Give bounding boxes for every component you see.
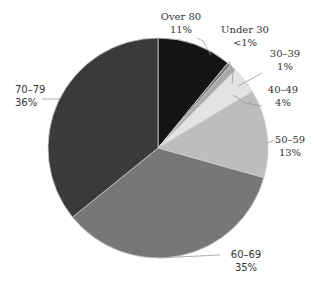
label-40-49-name: 40–49: [268, 84, 298, 95]
label-60-69-pct: 35%: [235, 262, 257, 273]
label-30-39-name: 30–39: [270, 48, 300, 59]
label-40-49-pct: 4%: [275, 97, 291, 108]
label-under30-pct: <1%: [233, 37, 257, 48]
label-70-79-name: 70–79: [15, 84, 45, 95]
label-50-59-name: 50–59: [275, 134, 305, 145]
label-70-79-pct: 36%: [15, 97, 37, 108]
label-over80-name: Over 80: [161, 11, 201, 22]
label-over80-pct: 11%: [170, 24, 192, 35]
label-60-69-name: 60–69: [231, 249, 261, 260]
pie-chart: Over 80 11% Under 30 <1% 30–39 1% 40–49 …: [0, 0, 316, 284]
label-under30-name: Under 30: [221, 24, 269, 35]
label-50-59-pct: 13%: [279, 147, 301, 158]
label-30-39-pct: 1%: [277, 61, 293, 72]
pie-slices: [48, 38, 268, 258]
